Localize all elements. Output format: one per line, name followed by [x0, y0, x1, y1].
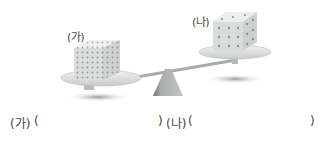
answer-left-prefix: (가) [10, 114, 30, 131]
left-cube-label: (가) [67, 28, 84, 44]
answer-right-prefix: (나) [166, 114, 186, 131]
right-cube [213, 12, 257, 51]
answer-left-close-paren: ) [158, 114, 163, 128]
right-plate-stem [232, 59, 238, 64]
answer-row: (가) ( ) (나) ( ) [0, 114, 327, 134]
answer-left-blank[interactable] [44, 114, 154, 130]
right-shadow [205, 74, 265, 84]
right-cube-label: (나) [192, 13, 209, 29]
answer-right-open-paren: ( [188, 114, 193, 128]
answer-right-blank[interactable] [198, 114, 308, 130]
answer-left-open-paren: ( [34, 114, 39, 128]
left-shadow [64, 92, 132, 102]
answer-right-close-paren: ) [310, 114, 315, 128]
left-cube [74, 40, 120, 80]
